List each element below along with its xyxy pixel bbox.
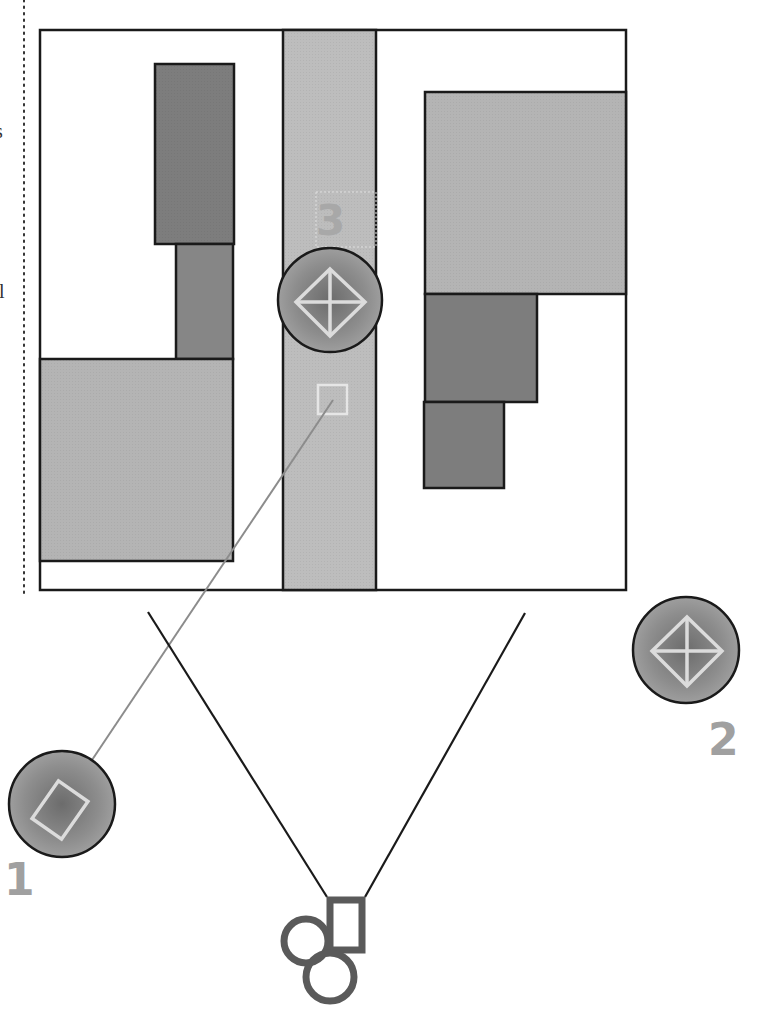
target-2[interactable] bbox=[633, 597, 739, 703]
building-left-middle-block bbox=[176, 244, 233, 359]
target-1-label: 1 bbox=[4, 854, 35, 905]
fov-right-line bbox=[365, 613, 525, 897]
target-3-label: 3 bbox=[316, 196, 345, 245]
camera-icon[interactable] bbox=[284, 900, 362, 1001]
fov-left-line bbox=[148, 612, 327, 897]
camera-layout-diagram: 3 2 1 bbox=[0, 0, 764, 1026]
target-1[interactable] bbox=[9, 751, 115, 857]
margin-fragment-l: l bbox=[0, 281, 5, 301]
building-right-lower-block bbox=[424, 402, 504, 488]
building-right-middle-block bbox=[425, 294, 537, 402]
target-3[interactable] bbox=[278, 248, 382, 352]
target-2-label: 2 bbox=[708, 714, 739, 765]
margin-fragment-s: s bbox=[0, 121, 3, 141]
